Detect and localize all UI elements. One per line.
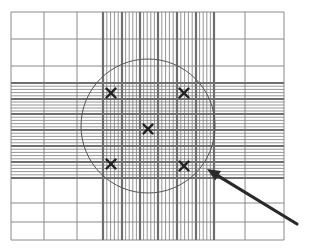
hemocytometer-diagram (0, 0, 309, 251)
central-counting-grid (11, 12, 284, 240)
